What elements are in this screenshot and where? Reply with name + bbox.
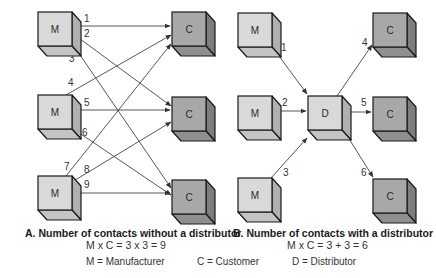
contact-number-label: 7 — [64, 161, 70, 172]
contact-number-label: 6 — [361, 167, 367, 178]
manufacturer-cube: M — [38, 176, 81, 220]
contact-arrow: 4 — [66, 35, 171, 95]
contact-arrow: 5 — [72, 97, 170, 110]
customer-cube: C — [172, 97, 215, 141]
manufacturer-cube: M — [38, 95, 81, 139]
customer-cube: C — [373, 97, 416, 141]
manufacturer-cube-label: M — [251, 25, 259, 36]
panel-b-title: B. Number of contacts with a distributor — [233, 227, 433, 239]
manufacturer-cube-label: M — [251, 190, 259, 201]
manufacturer-cube: M — [238, 178, 281, 222]
contact-number-label: 6 — [82, 127, 88, 138]
manufacturer-cube-label: M — [51, 188, 59, 199]
customer-cube-label: C — [386, 191, 393, 202]
customer-cube-label: C — [185, 192, 192, 203]
contact-number-label: 4 — [68, 77, 74, 88]
distributor-cube: D — [308, 96, 351, 140]
manufacturer-cube-label: M — [251, 108, 259, 119]
manufacturer-cube-label: M — [51, 107, 59, 118]
panel-a-title: A. Number of contacts without a distribu… — [25, 227, 241, 239]
contact-number-label: 4 — [362, 37, 368, 48]
contact-number-label: 1 — [84, 13, 90, 24]
contact-arrow: 9 — [72, 179, 170, 193]
panel-b-nodes: MMMDCCC — [238, 13, 416, 223]
customer-cube-label: C — [185, 109, 192, 120]
customer-cube: C — [172, 180, 215, 224]
panel-b-formula: M x C = 3 + 3 = 6 — [287, 239, 368, 251]
contact-number-label: 9 — [84, 179, 90, 190]
contact-number-label: 1 — [281, 42, 287, 53]
contact-number-label: 5 — [361, 97, 367, 108]
contact-arrow: 1 — [72, 13, 170, 26]
customer-cube-label: C — [386, 109, 393, 120]
manufacturer-cube: M — [38, 12, 81, 56]
manufacturer-cube: M — [238, 96, 281, 140]
customer-cube: C — [373, 179, 416, 223]
manufacturer-cube-label: M — [51, 24, 59, 35]
customer-cube-label: C — [185, 24, 192, 35]
contact-arrow: 6 — [346, 134, 373, 178]
contact-number-label: 2 — [282, 97, 288, 108]
legend-manufacturer: M = Manufacturer — [86, 256, 165, 267]
customer-cube: C — [172, 12, 215, 56]
contact-number-label: 3 — [283, 167, 289, 178]
panel-a-nodes: MMMCCC — [38, 12, 215, 224]
legend-distributor: D = Distributor — [292, 256, 356, 267]
contact-number-label: 2 — [84, 28, 90, 39]
contact-number-label: 8 — [84, 164, 90, 175]
contact-arrow: 3 — [271, 138, 307, 178]
manufacturer-cube: M — [238, 13, 281, 57]
panel-a-formula: M x C = 3 x 3 = 9 — [86, 239, 166, 251]
legend-customer: C = Customer — [197, 256, 259, 267]
contact-arrow: 4 — [337, 37, 372, 96]
contact-number-label: 5 — [84, 97, 90, 108]
customer-cube-label: C — [386, 25, 393, 36]
contact-arrow: 2 — [72, 28, 171, 106]
distributor-cube-label: D — [321, 108, 328, 119]
customer-cube: C — [373, 13, 416, 57]
